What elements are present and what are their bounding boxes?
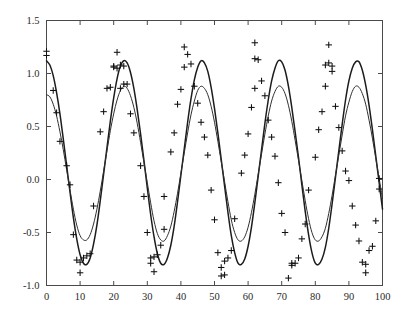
scatter-marker-plus bbox=[184, 51, 190, 57]
y-tick-label: -0.5 bbox=[23, 227, 40, 238]
scatter-marker-plus bbox=[90, 203, 96, 209]
scatter-marker-plus bbox=[282, 229, 288, 235]
x-tick-label: 30 bbox=[142, 291, 153, 302]
scatter-marker-plus bbox=[238, 170, 244, 176]
scatter-marker-plus bbox=[141, 193, 147, 199]
scatter-marker-plus bbox=[242, 152, 248, 158]
x-tick-label: 50 bbox=[209, 291, 220, 302]
scatter-marker-plus bbox=[211, 217, 217, 223]
scatter-marker-plus bbox=[352, 222, 358, 228]
x-tick-label: 70 bbox=[276, 291, 287, 302]
scatter-marker-plus bbox=[255, 57, 261, 63]
scatter-marker-plus bbox=[305, 187, 311, 193]
scatter-marker-plus bbox=[77, 270, 83, 276]
scatter-marker-plus bbox=[356, 238, 362, 244]
scatter-marker-plus bbox=[295, 255, 301, 261]
x-tick-label: 40 bbox=[176, 291, 187, 302]
scatter-marker-plus bbox=[201, 134, 207, 140]
scatter-marker-plus bbox=[349, 203, 355, 209]
scatter-marker-plus bbox=[376, 175, 382, 181]
y-tick-label: 0.5 bbox=[26, 121, 39, 132]
scatter-marker-plus bbox=[366, 247, 372, 253]
scatter-marker-plus bbox=[322, 83, 328, 89]
scatter-marker-plus bbox=[215, 249, 221, 255]
scatter-marker-plus bbox=[275, 179, 281, 185]
scatter-marker-plus bbox=[43, 48, 49, 54]
x-tick-label: 80 bbox=[310, 291, 321, 302]
scatter-marker-plus bbox=[272, 153, 278, 159]
scatter-marker-plus bbox=[181, 64, 187, 70]
scatter-marker-plus bbox=[319, 108, 325, 114]
plot-frame bbox=[47, 21, 383, 286]
scatter-marker-plus bbox=[188, 61, 194, 67]
y-tick-label: -1.0 bbox=[23, 280, 40, 291]
plot-canvas: 0102030405060708090100 -1.0-0.50.00.51.0… bbox=[0, 0, 401, 313]
scatter-marker-plus bbox=[181, 44, 187, 50]
y-tick-label: 1.0 bbox=[26, 68, 39, 79]
scatter-marker-plus bbox=[373, 218, 379, 224]
scatter-marker-plus bbox=[346, 177, 352, 183]
scatter-marker-plus bbox=[174, 101, 180, 107]
scatter-marker-plus bbox=[326, 42, 332, 48]
y-tick-label: 0.0 bbox=[26, 174, 39, 185]
scatter-marker-plus bbox=[198, 119, 204, 125]
scatter-marker-plus bbox=[218, 264, 224, 270]
scatter-marker-plus bbox=[147, 260, 153, 266]
scatter-marker-plus bbox=[245, 131, 251, 137]
scatter-marker-plus bbox=[285, 275, 291, 281]
scatter-marker-plus bbox=[205, 152, 211, 158]
scatter-marker-plus bbox=[299, 236, 305, 242]
x-axis-tick-labels: 0102030405060708090100 bbox=[44, 291, 391, 302]
scatter-marker-plus bbox=[329, 63, 335, 69]
scatter-marker-plus bbox=[144, 229, 150, 235]
scatter-marker-plus bbox=[104, 85, 110, 91]
scatter-marker-plus bbox=[332, 103, 338, 109]
x-tick-label: 10 bbox=[75, 291, 86, 302]
scatter-marker-plus bbox=[279, 210, 285, 216]
scatter-marker-plus bbox=[178, 86, 184, 92]
x-axis-ticks bbox=[47, 21, 383, 286]
x-tick-label: 20 bbox=[108, 291, 119, 302]
scatter-marker-plus bbox=[107, 84, 113, 90]
scatter-marker-plus bbox=[100, 108, 106, 114]
scatter-marker-plus bbox=[97, 129, 103, 135]
scatter-marker-plus bbox=[268, 134, 274, 140]
scatter-marker-plus bbox=[252, 40, 258, 46]
scatter-marker-plus bbox=[127, 111, 133, 117]
scatter-marker-plus bbox=[363, 270, 369, 276]
scatter-marker-plus bbox=[369, 243, 375, 249]
y-axis-ticks bbox=[47, 21, 383, 286]
scatter-marker-plus bbox=[63, 163, 69, 169]
scatter-marker-plus bbox=[208, 187, 214, 193]
x-tick-label: 0 bbox=[44, 291, 49, 302]
scatter-marker-plus bbox=[161, 193, 167, 199]
scatter-marker-plus bbox=[195, 100, 201, 106]
scatter-marker-plus bbox=[262, 93, 268, 99]
scatter-marker-plus bbox=[161, 226, 167, 232]
data-series-lines bbox=[47, 60, 383, 265]
scatter-marker-plus bbox=[218, 273, 224, 279]
scatter-marker-plus bbox=[158, 242, 164, 248]
x-tick-label: 100 bbox=[375, 291, 391, 302]
y-tick-label: 1.5 bbox=[26, 15, 39, 26]
scatter-marker-plus bbox=[252, 85, 258, 91]
scatter-marker-plus bbox=[221, 272, 227, 278]
scatter-marker-plus bbox=[168, 149, 174, 155]
x-tick-label: 60 bbox=[243, 291, 254, 302]
data-point-markers bbox=[43, 40, 382, 282]
scatter-marker-plus bbox=[117, 85, 123, 91]
scatter-marker-plus bbox=[171, 130, 177, 136]
scatter-marker-plus bbox=[248, 104, 254, 110]
scatter-marker-plus bbox=[114, 49, 120, 55]
scatter-marker-plus bbox=[67, 182, 73, 188]
scatter-marker-plus bbox=[131, 130, 137, 136]
scatter-marker-plus bbox=[252, 55, 258, 61]
scatter-marker-plus bbox=[151, 269, 157, 275]
y-axis-tick-labels: -1.0-0.50.00.51.01.5 bbox=[23, 15, 40, 291]
scatter-marker-plus bbox=[342, 168, 348, 174]
scatter-marker-plus bbox=[225, 255, 231, 261]
series-line-large-amplitude-fit bbox=[47, 60, 383, 265]
scatter-marker-plus bbox=[312, 154, 318, 160]
plot-border bbox=[47, 21, 383, 286]
scatter-marker-plus bbox=[137, 163, 143, 169]
